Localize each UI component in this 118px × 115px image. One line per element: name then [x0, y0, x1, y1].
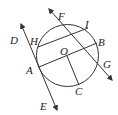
label-a: A — [25, 64, 33, 76]
label-o: O — [60, 45, 68, 57]
label-b: B — [98, 36, 105, 48]
label-c: C — [75, 85, 83, 97]
label-i: I — [84, 18, 90, 30]
label-f: F — [57, 10, 65, 22]
segment-oc — [67, 56, 79, 85]
label-e: E — [39, 100, 47, 112]
label-h: H — [29, 35, 39, 47]
label-d: D — [9, 34, 18, 46]
diameter-ab — [39, 43, 97, 67]
label-g: G — [103, 58, 111, 70]
geometry-figure: D H F I B O G A C E — [0, 0, 118, 115]
